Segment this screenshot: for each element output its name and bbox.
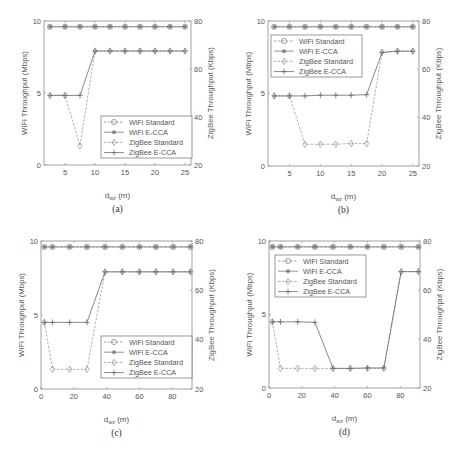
plus-marker [77, 92, 82, 98]
y-tick-label: 5 [262, 310, 266, 319]
x-tick-label: 0 [267, 391, 271, 400]
y-right-tick-label: 20 [195, 385, 203, 394]
x-tick-label: 60 [135, 392, 143, 401]
asterisk-dot [366, 245, 369, 248]
x-tick-label: 60 [363, 391, 371, 400]
asterisk-dot [279, 245, 282, 248]
panel-b: 510152025051020406080dwz (m)WiFi Through… [244, 17, 443, 217]
asterisk-dot [113, 351, 116, 354]
series-line [50, 51, 185, 95]
y-axis-right-label: ZigBee Throughput (Kbps) [206, 47, 215, 139]
x-tick-label: 20 [298, 391, 306, 400]
y-tick-label: 5 [37, 89, 41, 98]
plus-marker [92, 48, 97, 54]
asterisk-dot [121, 246, 124, 249]
x-tick-label: 15 [347, 169, 355, 178]
y-tick-label: 5 [261, 89, 265, 98]
y-tick-label: 10 [258, 237, 266, 246]
asterisk-dot [304, 25, 307, 28]
y-right-tick-label: 80 [423, 237, 431, 246]
legend-label: ZigBee Standard [129, 358, 183, 367]
x-tick-label: 20 [70, 392, 78, 401]
asterisk-dot [334, 25, 337, 28]
x-tick-label: 80 [396, 391, 404, 400]
legend-label: WiFi E-CCA [129, 128, 168, 137]
asterisk-dot [79, 25, 82, 28]
plus-marker [365, 365, 370, 371]
y-tick-label: 0 [262, 384, 266, 393]
asterisk-dot [138, 246, 141, 249]
series-wifi-e-cca [272, 25, 415, 29]
asterisk-dot [139, 25, 142, 28]
plus-marker [318, 92, 323, 98]
asterisk-dot [411, 25, 414, 28]
legend-label: ZigBee E-CCA [299, 67, 346, 76]
asterisk-dot [154, 246, 157, 249]
plus-marker [67, 319, 72, 325]
y-right-tick-label: 60 [195, 286, 203, 295]
legend-label: ZigBee Standard [299, 57, 353, 66]
asterisk-dot [94, 25, 97, 28]
legend-label: ZigBee Standard [129, 138, 183, 147]
legend-label: ZigBee E-CCA [129, 148, 176, 157]
plus-marker [278, 319, 283, 325]
y-tick-label: 10 [33, 17, 41, 26]
series-zigbee-e-cca [47, 48, 187, 98]
y-right-tick-label: 40 [195, 335, 203, 344]
plus-marker [153, 269, 158, 275]
y-right-tick-label: 20 [423, 384, 431, 393]
y-axis-label: WiFi Throughput (Mbps) [20, 51, 29, 135]
legend-label: WiFi Standard [303, 257, 349, 266]
legend: WiFi StandardWiFi E-CCAZigBee StandardZi… [275, 255, 366, 297]
y-right-tick-label: 80 [422, 17, 430, 26]
asterisk-dot [382, 245, 385, 248]
legend-label: ZigBee Standard [303, 277, 357, 286]
y-axis-label: WiFi Throughput (Mbps) [245, 272, 254, 356]
y-right-tick-label: 60 [422, 65, 430, 74]
x-axis-label: dwz (m) [331, 192, 357, 202]
y-axis-label: WiFi Throughput (Mbps) [17, 273, 26, 357]
asterisk-dot [104, 246, 107, 249]
legend-label: WiFi Standard [129, 338, 175, 347]
y-tick-label: 0 [37, 161, 41, 170]
asterisk-dot [86, 246, 89, 249]
plus-marker [272, 93, 277, 99]
x-axis-label: dwz (m) [104, 415, 130, 425]
legend-label: WiFi Standard [299, 37, 345, 46]
x-tick-label: 15 [121, 168, 129, 177]
asterisk-dot [296, 245, 299, 248]
x-tick-label: 20 [378, 169, 386, 178]
asterisk-dot [154, 25, 157, 28]
x-axis-label: dwz (m) [332, 414, 358, 424]
x-tick-label: 25 [409, 169, 417, 178]
panel-caption: (b) [338, 205, 349, 216]
y-right-tick-label: 40 [194, 113, 202, 122]
y-tick-label: 5 [34, 311, 38, 320]
plus-marker [302, 93, 307, 99]
asterisk-dot [172, 246, 175, 249]
x-tick-label: 0 [39, 392, 43, 401]
panel-caption: (a) [112, 204, 123, 215]
plus-marker [379, 49, 384, 55]
legend: WiFi StandardWiFi E-CCAZigBee StandardZi… [101, 336, 192, 378]
asterisk-dot [271, 245, 274, 248]
plus-marker [349, 92, 354, 98]
legend: WiFi StandardWiFi E-CCAZigBee StandardZi… [271, 35, 362, 77]
y-axis-right-label: ZigBee Throughput (Kbps) [207, 269, 216, 361]
asterisk-dot [314, 245, 317, 248]
plus-marker [107, 48, 112, 54]
plus-marker [152, 48, 157, 54]
y-axis-right-label: ZigBee Throughput (Kbps) [434, 47, 443, 139]
plus-marker [330, 365, 335, 371]
plus-marker [410, 48, 415, 54]
y-tick-label: 0 [261, 162, 265, 171]
y-tick-label: 0 [34, 385, 38, 394]
plus-marker [182, 48, 187, 54]
plus-marker [102, 269, 107, 275]
plus-marker [50, 319, 55, 325]
asterisk-dot [288, 25, 291, 28]
x-tick-label: 25 [181, 168, 189, 177]
x-tick-label: 5 [63, 168, 67, 177]
series-wifi-e-cca [48, 25, 187, 29]
asterisk-dot [365, 25, 368, 28]
